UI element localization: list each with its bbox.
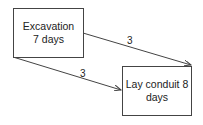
node-lay-conduit-duration: days [126,91,188,104]
edge-lower-arrow [13,57,121,90]
edge-lower-label: 3 [80,68,86,79]
node-excavation-title: Excavation [23,20,74,33]
node-excavation: Excavation 7 days [13,8,84,58]
node-excavation-duration: 7 days [23,33,74,46]
edge-upper-label: 3 [127,35,133,46]
node-lay-conduit: Lay conduit 8 days [122,66,192,116]
node-lay-conduit-title: Lay conduit 8 [126,78,188,91]
edge-upper-arrow [83,33,191,65]
